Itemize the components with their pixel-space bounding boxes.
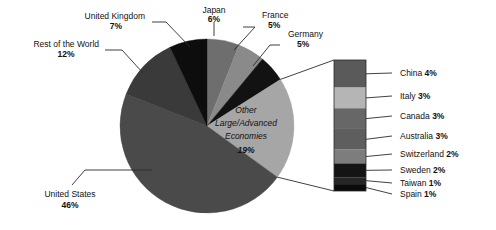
label-other-line3: Economies [225,131,268,141]
leader-row [105,50,143,73]
breakout-leader-taiwan [366,181,392,183]
breakout-value-china: 4% [425,68,438,78]
bar-segment-spain[interactable] [334,184,366,191]
breakout-label-spain: Spain 1% [400,189,437,199]
breakout-label-switzerland: Switzerland 2% [400,149,459,159]
label-row-value: 12% [57,49,74,59]
bar-segment-sweden[interactable] [334,163,366,177]
label-other-line2: Large/Advanced [215,118,277,128]
label-japan-value: 6% [208,14,221,24]
bar-segment-taiwan[interactable] [334,177,366,184]
leader-france [234,27,255,50]
breakout-leader-italy [366,96,392,98]
label-france-value: 5% [268,20,281,30]
breakout-leader-lines [366,73,392,194]
bar-segment-italy[interactable] [334,88,366,109]
chart-svg: Japan 6% France 5% Germany 5% United Kin… [0,0,496,230]
label-germany-value: 5% [297,39,310,49]
breakout-label-china: China 4% [400,68,437,78]
breakout-label-sweden: Sweden 2% [400,165,446,175]
label-row-name: Rest of the World [33,39,99,49]
breakout-value-italy: 3% [418,91,431,101]
breakout-labels-group: China 4%Italy 3%Canada 3%Australia 3%Swi… [400,68,459,199]
label-us-value: 46% [61,200,78,210]
breakout-leader-china [366,73,392,74]
breakout-leader-switzerland [366,154,392,157]
bar-segment-china[interactable] [334,60,366,88]
breakout-value-canada: 3% [432,111,445,121]
label-france-name: France [262,10,289,20]
breakout-value-switzerland: 2% [446,149,459,159]
breakout-label-australia: Australia 3% [400,131,448,141]
bar-segment-australia[interactable] [334,129,366,150]
bar-segment-switzerland[interactable] [334,150,366,164]
label-other-value: 19% [237,145,254,155]
breakout-value-sweden: 2% [433,165,446,175]
breakout-leader-spain [366,188,392,194]
breakout-label-italy: Italy 3% [400,91,431,101]
stacked-bar-group [334,60,366,191]
label-uk-value: 7% [110,21,123,31]
breakout-label-taiwan: Taiwan 1% [400,178,442,188]
breakout-value-spain: 1% [424,189,437,199]
breakout-value-australia: 3% [435,131,448,141]
label-uk-name: United Kingdom [85,11,145,21]
label-germany-name: Germany [288,29,324,39]
breakout-leader-australia [366,136,392,139]
label-us-name: United States [44,189,95,199]
breakout-leader-canada [366,116,392,119]
breakout-label-canada: Canada 3% [400,111,445,121]
pie-chart-figure: Japan 6% France 5% Germany 5% United Kin… [0,0,496,230]
label-other-line1: Other [235,105,257,115]
bar-segment-canada[interactable] [334,108,366,129]
breakout-value-taiwan: 1% [429,178,442,188]
